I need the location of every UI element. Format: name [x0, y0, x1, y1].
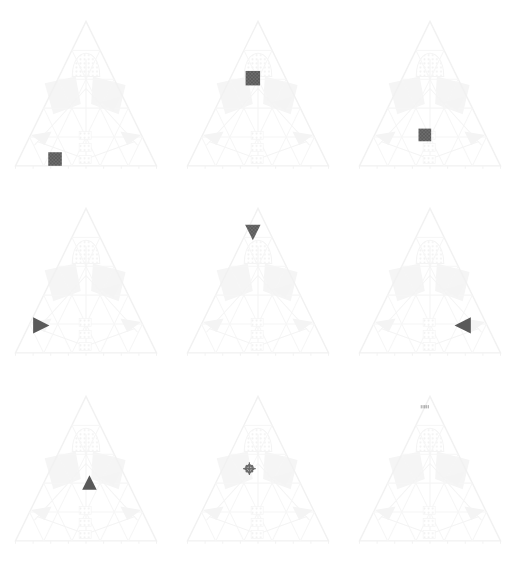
data-marker-triangle-down[interactable] [245, 225, 260, 240]
ternary-panel-3[interactable] [0, 187, 172, 374]
data-marker-dash-row[interactable] [421, 405, 429, 408]
ternary-plot-0 [0, 0, 172, 187]
ternary-plot-6 [0, 375, 172, 562]
ternary-plot-4 [172, 187, 344, 374]
panel-grid [0, 0, 516, 562]
ternary-panel-8[interactable] [344, 375, 516, 562]
ternary-plot-1 [172, 0, 344, 187]
ternary-panel-2[interactable] [344, 0, 516, 187]
ternary-plot-2 [344, 0, 516, 187]
data-marker-square[interactable] [48, 152, 62, 166]
ternary-plot-8 [344, 375, 516, 562]
ternary-panel-1[interactable] [172, 0, 344, 187]
ternary-panel-6[interactable] [0, 375, 172, 562]
ternary-plot-3 [0, 187, 172, 374]
data-marker-square[interactable] [419, 129, 432, 142]
figure-canvas [0, 0, 516, 562]
data-marker-square[interactable] [246, 71, 260, 85]
data-marker-triangle-left[interactable] [455, 318, 471, 334]
ternary-panel-5[interactable] [344, 187, 516, 374]
ternary-panel-0[interactable] [0, 0, 172, 187]
ternary-panel-7[interactable] [172, 375, 344, 562]
ternary-plot-5 [344, 187, 516, 374]
ternary-panel-4[interactable] [172, 187, 344, 374]
ternary-plot-7 [172, 375, 344, 562]
